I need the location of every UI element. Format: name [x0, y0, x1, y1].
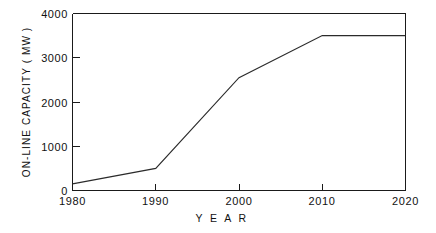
x-axis-title: Y E A R [196, 212, 249, 224]
y-tick-label-3000: 3000 [41, 52, 68, 64]
plot-frame [73, 14, 406, 191]
chart-figure: 4000 3000 2000 1000 0 1980 1990 2000 201… [0, 0, 436, 233]
data-series-on-line-capacity [73, 36, 406, 184]
y-tick-label-1000: 1000 [41, 141, 68, 153]
x-tick-label-1980: 1980 [59, 195, 86, 207]
y-tick-label-2000: 2000 [41, 97, 68, 109]
x-tick-label-2000: 2000 [226, 195, 253, 207]
x-tick-label-1990: 1990 [142, 195, 169, 207]
x-tick-label-2010: 2010 [309, 195, 336, 207]
y-tick-label-4000: 4000 [41, 8, 68, 20]
y-tick-labels: 4000 3000 2000 1000 0 [41, 8, 68, 197]
y-axis-ticks [73, 14, 80, 191]
y-axis-title: ON-LINE CAPACITY ( MW ) [21, 27, 32, 178]
x-tick-labels: 1980 1990 2000 2010 2020 [59, 195, 419, 207]
series-line [73, 36, 406, 184]
x-tick-label-2020: 2020 [392, 195, 419, 207]
line-chart-canvas: 4000 3000 2000 1000 0 1980 1990 2000 201… [0, 0, 436, 233]
x-axis-ticks [73, 184, 406, 191]
